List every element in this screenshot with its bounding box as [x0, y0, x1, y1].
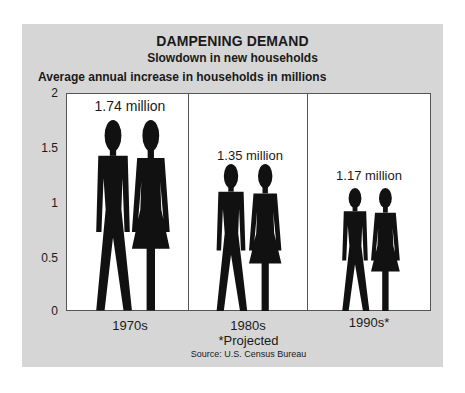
x-tick-1990s: 1990s* — [309, 315, 429, 330]
y-tick-1: 1 — [28, 196, 58, 210]
woman-icon — [371, 188, 400, 311]
y-axis-label: Average annual increase in households in… — [38, 70, 326, 84]
figures-1970s — [92, 120, 172, 311]
column-divider — [307, 94, 308, 310]
projected-note: *Projected — [66, 333, 431, 348]
woman-icon — [249, 164, 281, 311]
column-divider — [188, 94, 189, 310]
chart-subtitle: Slowdown in new households — [22, 51, 443, 65]
y-tick-0-5: 0.5 — [28, 251, 58, 265]
chart-title: DAMPENING DEMAND — [22, 33, 443, 49]
y-tick-1-5: 1.5 — [28, 141, 58, 155]
x-tick-1980s: 1980s — [188, 318, 308, 333]
value-label-1990s: 1.17 million — [309, 168, 429, 183]
y-tick-2: 2 — [28, 86, 58, 100]
woman-icon — [132, 120, 170, 310]
man-icon — [217, 164, 248, 311]
source-note: Source: U.S. Census Bureau — [66, 349, 431, 359]
man-icon — [96, 120, 132, 310]
value-label-1980s: 1.35 million — [190, 148, 310, 163]
y-tick-0: 0 — [28, 304, 58, 318]
value-label-1970s: 1.74 million — [70, 98, 190, 114]
figures-1990s — [339, 188, 409, 311]
x-tick-1970s: 1970s — [70, 318, 190, 333]
man-icon — [342, 188, 369, 311]
figures-1980s — [213, 164, 293, 311]
